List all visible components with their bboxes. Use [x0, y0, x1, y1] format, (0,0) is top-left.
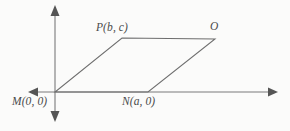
- vertex-label-o: O: [210, 21, 218, 33]
- parallelogram-shape: [55, 38, 215, 92]
- y-axis-down-arrow-icon: [51, 111, 60, 122]
- vertex-label-m: M(0, 0): [12, 96, 47, 108]
- x-axis-right-arrow-icon: [268, 88, 278, 97]
- figure-canvas: [0, 0, 290, 131]
- vertex-label-n: N(a, 0): [122, 96, 155, 108]
- coordinate-geometry-figure: P(b, c) O M(0, 0) N(a, 0): [0, 0, 290, 131]
- y-axis-up-arrow-icon: [51, 5, 60, 16]
- vertex-label-p: P(b, c): [96, 22, 128, 34]
